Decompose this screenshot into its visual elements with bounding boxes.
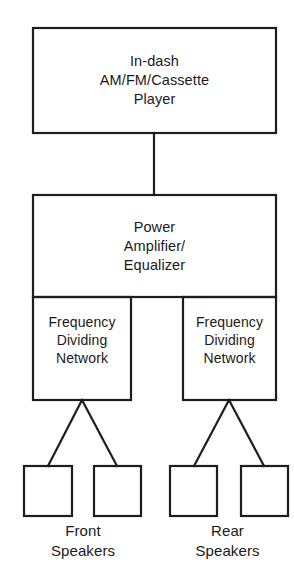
connector-fdnright-rear-right xyxy=(229,400,264,466)
block-diagram: In-dash AM/FM/Cassette Player Power Ampl… xyxy=(0,0,294,583)
speaker-front-left-box xyxy=(24,466,72,516)
frequency-dividing-network-left-box xyxy=(33,297,131,400)
frequency-dividing-network-right-box xyxy=(183,297,276,400)
speaker-front-right-box xyxy=(94,466,141,516)
connector-fdnright-rear-left xyxy=(194,400,229,466)
speaker-rear-right-box xyxy=(241,466,288,516)
speaker-rear-left-box xyxy=(170,466,217,516)
connector-fdnleft-front-left xyxy=(48,400,82,466)
amplifier-box xyxy=(33,195,276,297)
connector-fdnleft-front-right xyxy=(82,400,117,466)
diagram-line-art xyxy=(0,0,294,583)
head-unit-box xyxy=(33,28,276,133)
